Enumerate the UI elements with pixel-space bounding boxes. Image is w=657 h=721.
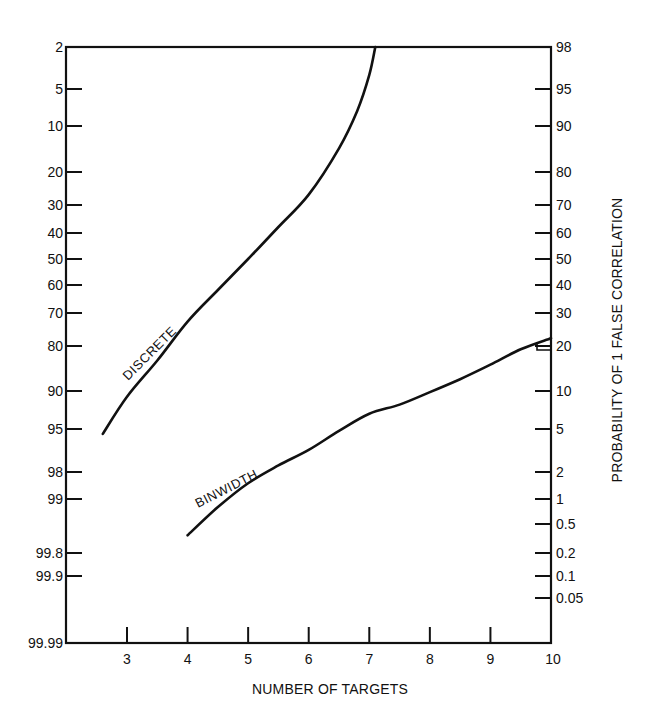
x-tick: 3 — [123, 627, 131, 667]
right-tick: 95 — [535, 81, 572, 97]
left-tick: 30 — [47, 197, 82, 213]
svg-text:5: 5 — [556, 421, 564, 437]
left-tick: 80 — [47, 338, 82, 354]
svg-text:8: 8 — [426, 651, 434, 667]
svg-text:2: 2 — [556, 464, 564, 480]
right-tick: 80 — [535, 164, 572, 180]
left-tick: 95 — [47, 421, 82, 437]
svg-text:95: 95 — [556, 81, 572, 97]
svg-text:5: 5 — [244, 651, 252, 667]
left-tick: 20 — [47, 164, 82, 180]
svg-text:70: 70 — [47, 305, 63, 321]
svg-text:70: 70 — [556, 197, 572, 213]
svg-text:20: 20 — [556, 338, 572, 354]
left-tick: 60 — [47, 277, 82, 293]
right-tick: 30 — [535, 305, 572, 321]
svg-text:90: 90 — [47, 383, 63, 399]
svg-text:6: 6 — [305, 651, 313, 667]
left-tick: 2 — [55, 39, 63, 55]
x-tick: 10 — [545, 651, 561, 667]
right-tick: 20 — [535, 338, 572, 354]
left-tick: 70 — [47, 305, 82, 321]
svg-text:10: 10 — [545, 651, 561, 667]
label-binwidth: BINWIDTH — [193, 466, 261, 510]
svg-text:9: 9 — [487, 651, 495, 667]
right-axis: 98959080706050403020105210.50.20.10.05 — [535, 39, 583, 606]
svg-text:10: 10 — [556, 383, 572, 399]
x-tick: 4 — [184, 627, 192, 667]
svg-text:99.8: 99.8 — [36, 545, 63, 561]
x-tick: 8 — [426, 627, 434, 667]
left-tick: 5 — [55, 81, 82, 97]
svg-text:30: 30 — [556, 305, 572, 321]
left-axis: 2510203040506070809095989999.899.999.99 — [28, 39, 82, 651]
svg-text:30: 30 — [47, 197, 63, 213]
x-axis-title: NUMBER OF TARGETS — [252, 681, 408, 697]
svg-text:80: 80 — [47, 338, 63, 354]
svg-text:0.5: 0.5 — [556, 516, 576, 532]
svg-text:0.1: 0.1 — [556, 568, 576, 584]
right-tick: 10 — [535, 383, 572, 399]
right-tick: 0.5 — [535, 516, 576, 532]
left-tick: 40 — [47, 225, 82, 241]
right-tick: 70 — [535, 197, 572, 213]
svg-text:90: 90 — [556, 118, 572, 134]
left-tick: 50 — [47, 251, 82, 267]
left-tick: 90 — [47, 383, 82, 399]
svg-text:4: 4 — [184, 651, 192, 667]
svg-text:20: 20 — [47, 164, 63, 180]
svg-text:2: 2 — [55, 39, 63, 55]
right-tick: 40 — [535, 277, 572, 293]
svg-text:40: 40 — [556, 277, 572, 293]
svg-text:10: 10 — [47, 118, 63, 134]
svg-text:5: 5 — [55, 81, 63, 97]
left-tick: 99 — [47, 491, 82, 507]
x-tick: 6 — [305, 627, 313, 667]
svg-text:98: 98 — [47, 464, 63, 480]
svg-text:50: 50 — [556, 251, 572, 267]
left-tick: 99.99 — [28, 635, 63, 651]
right-tick: 1 — [535, 491, 564, 507]
right-tick: 60 — [535, 225, 572, 241]
svg-text:95: 95 — [47, 421, 63, 437]
svg-text:99: 99 — [47, 491, 63, 507]
left-tick: 99.9 — [36, 568, 82, 584]
left-tick: 99.8 — [36, 545, 82, 561]
svg-text:99.99: 99.99 — [28, 635, 63, 651]
svg-text:50: 50 — [47, 251, 63, 267]
right-tick: 5 — [535, 421, 564, 437]
x-tick: 7 — [365, 627, 373, 667]
x-axis: 345678910 — [123, 627, 561, 667]
svg-text:40: 40 — [47, 225, 63, 241]
svg-text:1: 1 — [556, 491, 564, 507]
right-tick: 2 — [535, 464, 564, 480]
label-discrete: DISCRETE — [120, 323, 180, 383]
right-tick: 90 — [535, 118, 572, 134]
curve-binwidth — [188, 338, 551, 535]
x-tick: 9 — [487, 627, 495, 667]
plot-frame — [66, 47, 551, 643]
svg-text:7: 7 — [365, 651, 373, 667]
curves: DISCRETEBINWIDTH — [103, 47, 551, 535]
right-tick: 0.1 — [535, 568, 576, 584]
probability-chart: 2510203040506070809095989999.899.999.99 … — [0, 0, 657, 721]
svg-text:60: 60 — [47, 277, 63, 293]
right-tick: 0.2 — [535, 545, 576, 561]
svg-text:80: 80 — [556, 164, 572, 180]
x-tick: 5 — [244, 627, 252, 667]
right-tick: 98 — [556, 39, 572, 55]
svg-text:98: 98 — [556, 39, 572, 55]
right-tick: 50 — [535, 251, 572, 267]
right-axis-title: PROBABILITY OF 1 FALSE CORRELATION — [609, 198, 625, 483]
left-tick: 10 — [47, 118, 82, 134]
svg-text:0.2: 0.2 — [556, 545, 576, 561]
svg-text:60: 60 — [556, 225, 572, 241]
left-tick: 98 — [47, 464, 82, 480]
svg-text:99.9: 99.9 — [36, 568, 63, 584]
svg-text:3: 3 — [123, 651, 131, 667]
right-tick: 0.05 — [535, 590, 583, 606]
svg-text:0.05: 0.05 — [556, 590, 583, 606]
curve-discrete — [103, 47, 376, 434]
